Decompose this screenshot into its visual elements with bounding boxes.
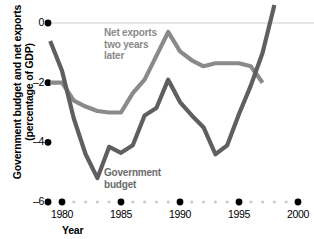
- x-axis-minor-dot: [72, 201, 75, 204]
- x-axis-tick-label: 2000: [281, 208, 314, 220]
- series-label-government-budget-line1: Government: [104, 167, 161, 179]
- y-axis-tick-label: 0: [16, 16, 44, 28]
- series-label-net-exports-line3: later: [104, 50, 157, 62]
- series-label-net-exports: Net exports two years later: [104, 27, 157, 62]
- x-axis-minor-dot: [202, 201, 205, 204]
- series-label-net-exports-line1: Net exports: [104, 27, 157, 39]
- x-axis-tick-label: 1995: [222, 208, 256, 220]
- x-axis-tick-label: 1985: [104, 208, 138, 220]
- x-axis-major-dot: [295, 199, 302, 206]
- x-axis-title: Year: [62, 224, 83, 236]
- x-axis-minor-dot: [190, 201, 193, 204]
- y-axis-tick-dot: [45, 20, 52, 27]
- y-axis-tick-dot: [45, 139, 52, 146]
- x-axis-minor-dot: [285, 201, 288, 204]
- x-axis-dotted-baseline: [49, 199, 302, 206]
- x-axis-major-dot: [236, 199, 243, 206]
- x-axis-minor-dot: [261, 201, 264, 204]
- y-axis-tick-label: –6: [16, 195, 44, 207]
- chart-container: Government budget and net exports (perce…: [0, 0, 314, 239]
- x-axis-minor-dot: [226, 201, 229, 204]
- y-axis-title-line1: Government budget and net exports: [12, 0, 24, 192]
- line-series-government-budget: [50, 5, 274, 178]
- x-axis-minor-dot: [214, 201, 217, 204]
- x-axis-minor-dot: [96, 201, 99, 204]
- x-axis-major-dot: [118, 199, 125, 206]
- y-axis-tick-label: –2: [16, 76, 44, 88]
- x-axis-minor-dot: [108, 201, 111, 204]
- x-axis-minor-dot: [143, 201, 146, 204]
- series-label-government-budget: Government budget: [104, 167, 161, 190]
- y-axis-tick-dot: [45, 199, 52, 206]
- x-axis-major-dot: [59, 199, 66, 206]
- y-axis-title: Government budget and net exports (perce…: [12, 0, 36, 192]
- x-axis-tick-label: 1980: [45, 208, 79, 220]
- chart-plot-area: [0, 0, 314, 239]
- series-label-government-budget-line2: budget: [104, 179, 161, 191]
- y-axis-tick-dots: [45, 20, 52, 206]
- x-axis-minor-dot: [131, 201, 134, 204]
- y-axis-title-line2: (percentage of GDP): [24, 0, 36, 192]
- x-axis-minor-dot: [155, 201, 158, 204]
- x-axis-major-dot: [177, 199, 184, 206]
- x-axis-minor-dot: [273, 201, 276, 204]
- x-axis-minor-dot: [249, 201, 252, 204]
- y-axis-tick-label: –4: [16, 135, 44, 147]
- x-axis-tick-label: 1990: [163, 208, 197, 220]
- x-axis-minor-dot: [84, 201, 87, 204]
- x-axis-minor-dot: [167, 201, 170, 204]
- series-label-net-exports-line2: two years: [104, 39, 157, 51]
